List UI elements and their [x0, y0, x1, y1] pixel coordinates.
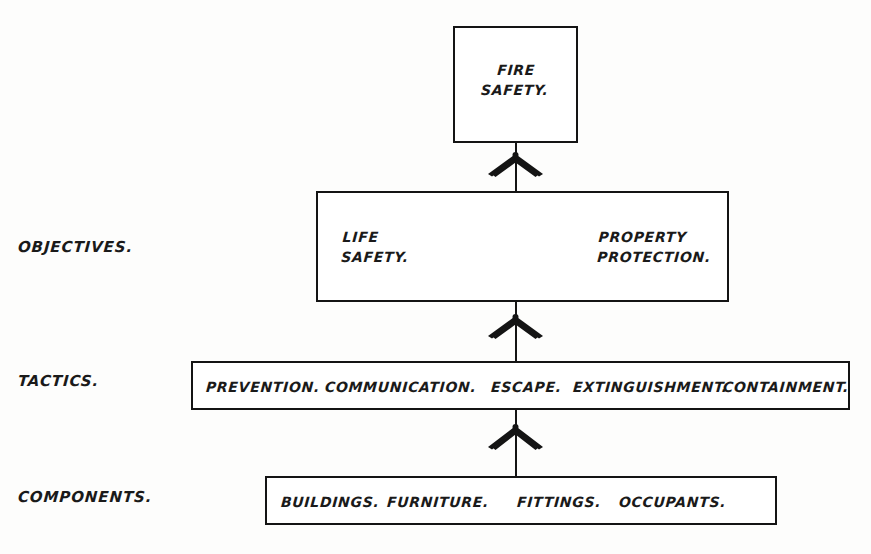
- fire-safety-diagram: FIRE SAFETY. OBJECTIVES. LIFE SAFETY. PR…: [0, 0, 871, 554]
- tactics-item-escape: ESCAPE.: [490, 377, 562, 397]
- tactics-item-prevention: PREVENTION.: [205, 377, 321, 397]
- objectives-item-property-protection-line2: PROTECTION.: [597, 247, 712, 267]
- components-item-occupants: OCCUPANTS.: [618, 492, 727, 512]
- objectives-item-life-safety-line2: SAFETY.: [341, 247, 410, 267]
- row-label-components: COMPONENTS.: [17, 488, 153, 506]
- arrowhead-up-icon: [480, 143, 551, 192]
- root-box-fire-safety: FIRE SAFETY.: [453, 26, 578, 143]
- objectives-item-property-protection: PROPERTY PROTECTION.: [597, 227, 714, 268]
- root-box-line2: SAFETY.: [454, 80, 576, 100]
- objectives-item-life-safety-line1: LIFE: [342, 227, 411, 247]
- components-item-fittings: FITTINGS.: [516, 492, 602, 512]
- tactics-box: PREVENTION. COMMUNICATION. ESCAPE. EXTIN…: [191, 361, 850, 410]
- components-item-buildings: BUILDINGS.: [280, 492, 380, 512]
- components-item-furniture: FURNITURE.: [386, 492, 490, 512]
- root-box-text: FIRE SAFETY.: [454, 60, 578, 101]
- connector-tactics-to-components: [480, 410, 551, 476]
- row-label-objectives: OBJECTIVES.: [17, 238, 133, 256]
- connector-objectives-to-tactics: [480, 302, 551, 362]
- row-label-tactics: TACTICS.: [17, 372, 99, 390]
- tactics-item-extinguishment: EXTINGUISHMENT.: [572, 377, 728, 397]
- objectives-item-property-protection-line1: PROPERTY: [598, 227, 713, 247]
- arrowhead-up-icon: [480, 302, 551, 362]
- objectives-box: LIFE SAFETY. PROPERTY PROTECTION.: [316, 191, 729, 302]
- connector-root-to-objectives: [480, 143, 551, 192]
- objectives-item-life-safety: LIFE SAFETY.: [341, 227, 411, 268]
- components-box: BUILDINGS. FURNITURE. FITTINGS. OCCUPANT…: [265, 476, 777, 525]
- root-box-line1: FIRE: [455, 60, 577, 80]
- arrowhead-up-icon: [480, 410, 551, 476]
- tactics-item-communication: COMMUNICATION.: [324, 377, 477, 397]
- tactics-item-containment: CONTAINMENT.: [722, 377, 850, 397]
